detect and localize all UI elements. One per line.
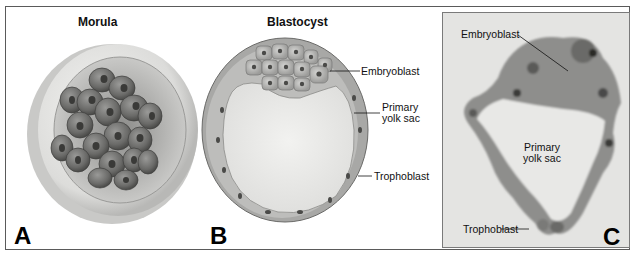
label-trophoblast-c: Trophoblast xyxy=(463,224,518,235)
panel-a-letter: A xyxy=(14,222,31,250)
panel-c: Embryoblast Primary yolk sac Trophoblast… xyxy=(442,12,630,248)
label-yolk-sac-c: yolk sac xyxy=(518,153,566,164)
label-yolk-sac: yolk sac xyxy=(382,113,420,124)
blastocyst-illustration xyxy=(202,38,380,222)
panel-b-letter: B xyxy=(210,222,227,250)
panel-b-title: Blastocyst xyxy=(267,15,328,29)
label-trophoblast: Trophoblast xyxy=(374,171,429,182)
label-embryoblast-c: Embryoblast xyxy=(461,29,519,40)
label-embryoblast: Embryoblast xyxy=(361,66,419,77)
micrograph-image xyxy=(443,13,630,248)
panel-c-letter: C xyxy=(603,223,620,248)
